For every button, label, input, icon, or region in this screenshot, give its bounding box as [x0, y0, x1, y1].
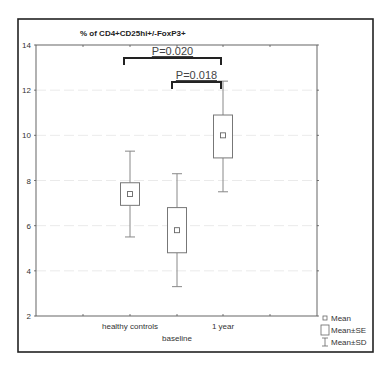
p-value-label: P=0.018 [176, 69, 217, 81]
y-tick-label: 6 [27, 222, 32, 231]
mean-marker [128, 192, 133, 197]
legend-label: Mean [331, 314, 351, 323]
legend-item: Mean±SE [321, 325, 366, 335]
y-tick-label: 2 [27, 312, 32, 321]
se-box-icon [321, 325, 329, 335]
p-value-label: P=0.020 [152, 45, 193, 57]
y-tick-label: 4 [27, 267, 32, 276]
x-category-label: baseline [162, 334, 192, 343]
box-plot-chart: % of CD4+CD25hi+/-FoxP3+ 2468101214 heal… [0, 0, 389, 367]
y-tick-label: 14 [22, 41, 31, 50]
legend-label: Mean±SD [331, 338, 367, 347]
legend-label: Mean±SE [331, 326, 366, 335]
mean-marker [175, 228, 180, 233]
mean-marker [221, 133, 226, 138]
mean-marker-icon [323, 316, 327, 320]
y-tick-label: 10 [22, 131, 31, 140]
x-category-label: 1 year [212, 322, 235, 331]
x-category-label: healthy controls [102, 322, 158, 331]
y-tick-label: 8 [27, 177, 32, 186]
y-tick-label: 12 [22, 86, 31, 95]
chart-title: % of CD4+CD25hi+/-FoxP3+ [80, 29, 186, 38]
